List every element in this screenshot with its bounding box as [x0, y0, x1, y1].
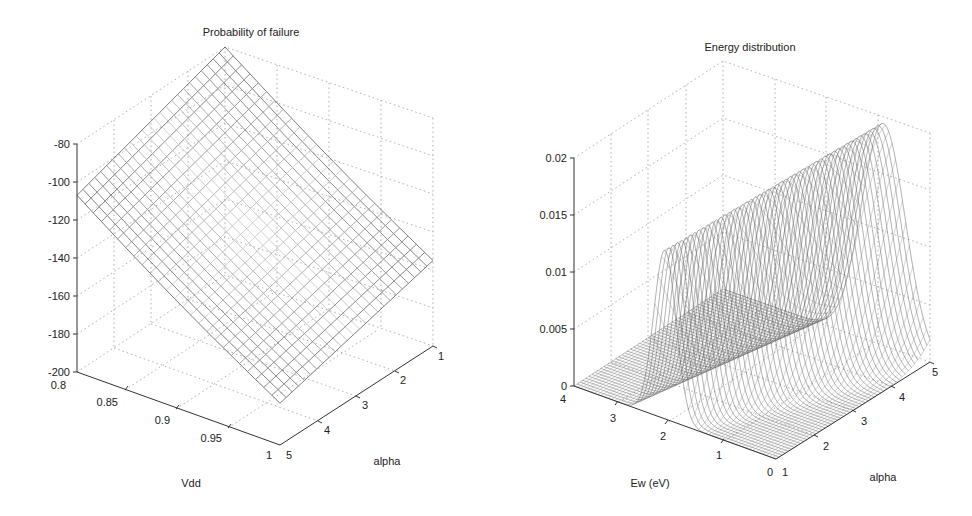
left-x-tick: 1	[266, 449, 272, 461]
right-x-tick: 1	[716, 449, 722, 461]
left-x-tick: 0.85	[97, 396, 118, 408]
right-y-label: alpha	[870, 471, 898, 483]
right-z-tick: 0.02	[546, 152, 567, 164]
right-plot-title: Energy distribution	[704, 41, 795, 53]
left-y-tick: 2	[400, 374, 406, 386]
left-y-tick: 5	[286, 449, 292, 461]
left-y-tick: 1	[438, 350, 444, 362]
right-surface-mesh	[574, 123, 930, 459]
right-x-tick: 3	[610, 412, 616, 424]
left-x-tick: 0.8	[51, 379, 66, 391]
left-z-tick: -200	[48, 366, 70, 378]
left-z-tick: -120	[48, 214, 70, 226]
right-y-tick: 5	[932, 366, 938, 378]
right-z-tick: 0	[561, 380, 567, 392]
left-z-tick: -100	[48, 176, 70, 188]
left-surface-mesh	[77, 47, 433, 403]
right-plot: Energy distribution	[539, 41, 938, 489]
left-x-label: Vdd	[181, 477, 201, 489]
right-y-tick: 3	[861, 415, 867, 427]
left-z-tick: -80	[54, 138, 70, 150]
left-x-tick: 0.95	[201, 432, 222, 444]
left-y-tick: 3	[362, 399, 368, 411]
right-y-tick: 4	[899, 391, 905, 403]
left-plot: Probability of failure	[48, 26, 444, 489]
right-z-tick: 0.01	[546, 266, 567, 278]
left-y-label: alpha	[374, 455, 402, 467]
left-plot-title: Probability of failure	[203, 26, 300, 38]
right-x-tick: 4	[560, 393, 566, 405]
figure: Probability of failure	[0, 0, 972, 516]
left-z-tick: -160	[48, 290, 70, 302]
left-y-tick: 4	[324, 424, 330, 436]
left-z-tick: -180	[48, 328, 70, 340]
right-x-label: Ew (eV)	[630, 477, 669, 489]
right-x-tick: 0	[767, 466, 773, 478]
right-y-tick: 2	[823, 440, 829, 452]
left-z-tick: -140	[48, 252, 70, 264]
right-z-tick: 0.005	[539, 323, 567, 335]
right-y-tick: 1	[782, 466, 788, 478]
right-z-tick: 0.015	[539, 209, 567, 221]
left-x-tick: 0.9	[155, 414, 170, 426]
right-x-tick: 2	[660, 430, 666, 442]
